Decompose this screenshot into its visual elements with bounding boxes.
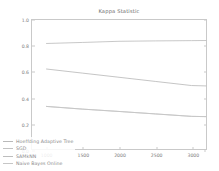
legend-label: Hoeffding Adaptive Tree <box>16 139 73 144</box>
x-tick-label: 3000 <box>187 153 199 158</box>
series-line <box>47 41 206 44</box>
legend-label: SAMkNN <box>16 154 36 159</box>
plot-area: 0.00.20.40.60.81.0 10001500200025003000 <box>31 19 207 150</box>
legend-line-icon <box>3 148 13 149</box>
x-tick-label: 2000 <box>114 153 126 158</box>
y-tick-label: 0.8 <box>22 44 29 49</box>
legend-item[interactable]: Naive Bayes Online <box>3 160 73 167</box>
chart-legend: Hoeffding Adaptive TreeSGDSAMkNNNaive Ba… <box>2 137 75 168</box>
y-tick-label: 1.0 <box>22 18 29 23</box>
series-lines <box>32 20 206 149</box>
legend-item[interactable]: SGD <box>3 145 73 152</box>
legend-line-icon <box>3 141 13 142</box>
x-tick-label: 2500 <box>151 153 163 158</box>
legend-label: SGD <box>16 146 26 151</box>
y-tick-label: 0.4 <box>22 96 29 101</box>
series-line <box>47 69 206 86</box>
chart-title: Kappa Statistic <box>31 8 207 14</box>
chart-figure: Kappa Statistic 0.00.20.40.60.81.0 10001… <box>0 0 219 171</box>
y-tick-mark <box>204 151 207 152</box>
legend-label: Naive Bayes Online <box>16 161 63 166</box>
legend-line-icon <box>3 163 13 164</box>
legend-item[interactable]: SAMkNN <box>3 152 73 159</box>
y-tick-label: 0.2 <box>22 122 29 127</box>
legend-line-icon <box>3 156 13 157</box>
series-line <box>47 106 206 116</box>
y-tick-label: 0.6 <box>22 70 29 75</box>
legend-item[interactable]: Hoeffding Adaptive Tree <box>3 138 73 145</box>
x-tick-label: 1500 <box>77 153 89 158</box>
